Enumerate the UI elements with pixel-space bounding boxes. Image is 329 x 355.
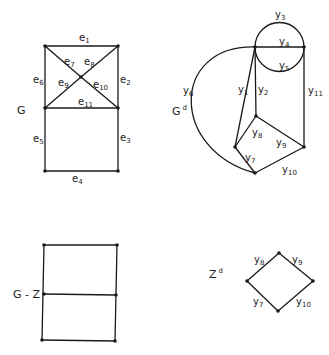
edge-label-y10: y10 [296,296,311,309]
edge-label-e4: e4 [72,173,83,186]
edge-label-e2: e2 [120,74,131,87]
edge-label-y8: y8 [252,127,262,140]
edge-label-e3: e3 [120,132,131,145]
graph-title-g-z: G - Z [13,288,40,301]
edge-label-e7: e7 [64,56,75,69]
edge-label-y2: y2 [258,84,268,97]
vertex-node [116,106,120,110]
edge-y2 [255,47,256,116]
graph-title-gd: Gd [172,104,187,118]
graph-gd: y3y5y6y4y1y2y8y9y7y10y11Gd [172,9,323,177]
vertex-node [114,293,118,297]
edge-label-e1: e1 [79,32,90,45]
vertex-node [43,44,47,48]
vertex-node [42,292,46,296]
edge-label-e10: e10 [93,79,108,92]
vertex-node [115,243,119,247]
vertex-node [40,338,44,342]
graph-title-g: G [17,104,26,117]
edge-e7 [45,46,81,77]
vertex-node [79,75,83,79]
graph-g-z: G - Z [13,243,119,343]
vertex-node [277,251,281,255]
edge-label-y11: y11 [308,85,323,98]
edge [42,340,115,341]
edge [44,294,116,295]
vertex-node [116,44,120,48]
edge-label-y10: y10 [282,164,297,177]
edge-label-e8: e8 [84,56,95,69]
edge-label-e5: e5 [33,133,44,146]
figure-svg: e1e2e3e4e5e6e7e8e9e10e11Gy3y5y6y4y1y2y8y… [0,0,329,355]
vertex-node [302,45,306,49]
vertex-node [254,114,258,118]
vertex-node [311,279,315,283]
vertex-node [302,145,306,149]
edge-label-y8: y8 [254,254,264,267]
edge-label-y3: y3 [275,9,285,22]
edge [115,245,117,341]
edge-label-y9: y9 [276,137,286,150]
graph-duality-figure: e1e2e3e4e5e6e7e8e9e10e11Gy3y5y6y4y1y2y8y… [0,0,329,355]
vertex-node [116,169,120,173]
vertex-node [276,309,280,313]
graph-g: e1e2e3e4e5e6e7e8e9e10e11G [17,32,131,186]
vertex-node [253,45,257,49]
edge-label-e11: e11 [78,96,93,109]
vertex-node [233,145,237,149]
vertex-node [253,171,257,175]
vertex-node [245,279,249,283]
edge-label-y7: y7 [253,296,263,309]
edge-label-e6: e6 [33,74,44,87]
edge-label-e9: e9 [58,77,69,90]
vertex-node [43,169,47,173]
graph-title-zd: Zd [209,267,223,281]
vertex-node [43,106,47,110]
vertex-node [42,243,46,247]
edge-y8 [247,253,279,281]
vertex-node [113,339,117,343]
graph-zd: y8y9y7y10Zd [209,251,315,313]
